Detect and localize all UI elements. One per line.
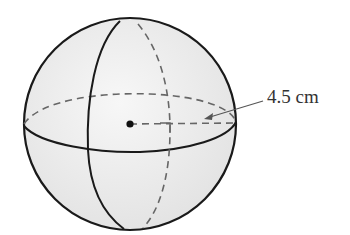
center-point	[126, 120, 133, 127]
sphere-diagram	[0, 0, 350, 235]
radius-label: 4.5 cm	[267, 86, 319, 108]
radius-line	[130, 123, 236, 124]
